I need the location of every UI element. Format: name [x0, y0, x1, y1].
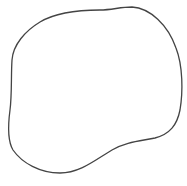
blob-outline [8, 7, 181, 173]
drawing-canvas [0, 0, 187, 186]
blob-svg [0, 0, 187, 186]
